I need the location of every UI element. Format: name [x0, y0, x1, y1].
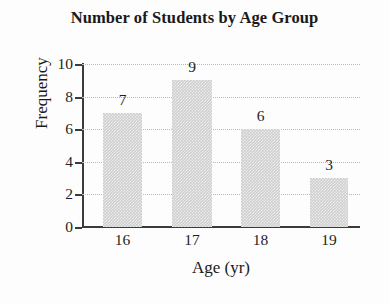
y-tick-mark-4 [75, 162, 82, 164]
bar-value-label-17: 9 [188, 58, 196, 76]
y-tick-mark-2 [75, 194, 82, 196]
y-tick-mark-10 [75, 64, 82, 66]
x-tick-label-17: 17 [184, 231, 200, 249]
bar-value-label-16: 7 [119, 91, 127, 109]
x-axis-title: Age (yr) [82, 258, 360, 278]
y-tick-label-10: 10 [58, 55, 74, 73]
x-tick-label-18: 18 [253, 231, 269, 249]
bar-value-label-18: 6 [257, 107, 265, 125]
bar-value-label-19: 3 [325, 156, 333, 174]
bar-16[interactable] [103, 113, 142, 227]
y-tick-mark-6 [75, 129, 82, 131]
chart-title: Number of Students by Age Group [0, 8, 389, 28]
y-tick-label-0: 0 [65, 218, 73, 236]
bar-19[interactable] [310, 178, 348, 227]
y-tick-label-6: 6 [65, 120, 73, 138]
plot-area: 10 8 6 4 2 0 7 9 6 3 16 17 18 19 [82, 64, 360, 227]
bar-17[interactable] [172, 80, 212, 227]
y-tick-mark-0 [75, 227, 82, 229]
y-tick-label-2: 2 [65, 185, 73, 203]
bar-chart-figure: Number of Students by Age Group 10 8 6 4… [0, 0, 389, 304]
gridline-10 [82, 64, 360, 65]
y-tick-mark-8 [75, 97, 82, 99]
bar-18[interactable] [241, 129, 280, 227]
x-tick-label-16: 16 [115, 231, 131, 249]
y-tick-label-4: 4 [65, 153, 73, 171]
y-axis-title: Frequency [32, 23, 52, 163]
x-tick-label-19: 19 [321, 231, 337, 249]
y-tick-label-8: 8 [65, 88, 73, 106]
